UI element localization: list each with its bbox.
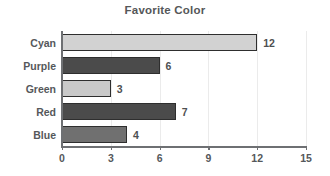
gridline — [306, 31, 307, 146]
x-axis-tick-mark — [62, 146, 63, 150]
bar-row[interactable]: 12 — [62, 34, 306, 51]
y-axis-label: Red — [36, 106, 56, 118]
bar-row[interactable]: 6 — [62, 57, 306, 74]
x-axis-tick-mark — [257, 146, 258, 150]
x-axis-line — [61, 146, 307, 148]
y-axis-line — [61, 31, 63, 146]
bar-row[interactable]: 3 — [62, 80, 306, 97]
bar-row[interactable]: 4 — [62, 126, 306, 143]
x-axis-tick-mark — [160, 146, 161, 150]
bar[interactable] — [62, 103, 176, 120]
x-axis-tick-label: 0 — [59, 152, 65, 164]
x-axis-tick-label: 9 — [205, 152, 211, 164]
y-axis-label: Cyan — [30, 37, 56, 49]
bar-chart: Favorite Color CyanPurpleGreenRedBlue 12… — [0, 0, 330, 176]
y-axis-label: Purple — [23, 60, 56, 72]
bar[interactable] — [62, 80, 111, 97]
y-axis-label: Blue — [33, 129, 56, 141]
y-axis-label: Green — [26, 83, 56, 95]
bar-row[interactable]: 7 — [62, 103, 306, 120]
bar[interactable] — [62, 34, 257, 51]
x-axis-tick-mark — [111, 146, 112, 150]
x-axis-tick-mark — [306, 146, 307, 150]
x-axis-tick-mark — [208, 146, 209, 150]
chart-title: Favorite Color — [0, 4, 330, 16]
bar[interactable] — [62, 126, 127, 143]
y-axis-category-labels: CyanPurpleGreenRedBlue — [0, 31, 56, 146]
plot-area: 126374 — [62, 31, 306, 146]
bar-value-label: 7 — [182, 106, 188, 118]
bar-value-label: 12 — [263, 37, 275, 49]
bar-value-label: 3 — [117, 83, 123, 95]
bar-value-label: 4 — [133, 129, 139, 141]
bar-value-label: 6 — [166, 60, 172, 72]
x-axis-tick-label: 15 — [300, 152, 312, 164]
x-axis-tick-label: 12 — [251, 152, 263, 164]
x-axis-tick-label: 6 — [157, 152, 163, 164]
x-axis-tick-label: 3 — [108, 152, 114, 164]
bar[interactable] — [62, 57, 160, 74]
